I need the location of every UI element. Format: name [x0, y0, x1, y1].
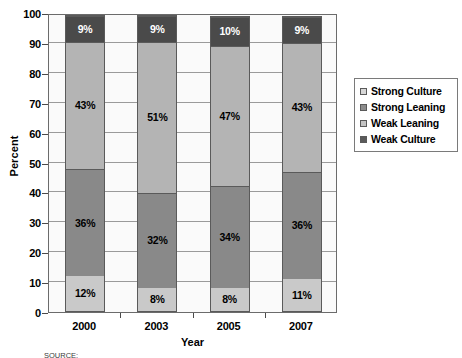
- bar-stack: 8%34%47%10%: [210, 15, 250, 312]
- y-tick-label: 90: [1, 39, 41, 50]
- segment-divider: [66, 42, 104, 43]
- y-tick-mark: [42, 164, 48, 165]
- bar-segment-weak-leaning[interactable]: 47%: [210, 46, 250, 187]
- x-axis-title: Year: [48, 336, 337, 348]
- segment-divider: [283, 17, 321, 18]
- y-tick-mark: [42, 44, 48, 45]
- legend-swatch-icon: [360, 104, 367, 111]
- x-tick-label-2007: 2007: [271, 320, 331, 332]
- legend-item-weak-leaning[interactable]: Weak Leaning: [360, 116, 453, 130]
- y-tick-label: 30: [1, 218, 41, 229]
- y-tick-mark: [42, 253, 48, 254]
- bar-segment-strong-culture[interactable]: 9%: [65, 15, 105, 42]
- y-tick-label: 40: [1, 188, 41, 199]
- bar-segment-strong-culture[interactable]: 9%: [282, 16, 322, 43]
- segment-value-label: 34%: [220, 232, 240, 243]
- bar-segment-strong-leaning[interactable]: 36%: [65, 169, 105, 276]
- bar-stack: 11%36%43%9%: [282, 15, 322, 312]
- segment-divider: [138, 193, 176, 194]
- segment-divider: [138, 42, 176, 43]
- bar-segment-strong-leaning[interactable]: 36%: [282, 172, 322, 280]
- segment-value-label: 32%: [147, 235, 167, 246]
- segment-divider: [211, 17, 249, 18]
- y-tick-mark: [42, 193, 48, 194]
- legend-item-label: Strong Leaning: [371, 102, 445, 113]
- x-tick-label-2005: 2005: [199, 320, 259, 332]
- segment-value-label: 9%: [150, 24, 165, 35]
- y-tick-mark: [42, 223, 48, 224]
- legend-swatch-icon: [360, 136, 367, 143]
- segment-value-label: 43%: [75, 100, 95, 111]
- bar-segment-weak-leaning[interactable]: 43%: [65, 42, 105, 170]
- bar-segment-strong-culture[interactable]: 10%: [210, 16, 250, 46]
- y-tick-mark: [42, 74, 48, 75]
- segment-value-label: 43%: [292, 102, 312, 113]
- bar-group-2005[interactable]: 8%34%47%10%: [210, 15, 250, 312]
- bar-group-2000[interactable]: 12%36%43%9%: [65, 15, 105, 312]
- y-tick-label: 0: [1, 308, 41, 319]
- segment-divider: [283, 172, 321, 173]
- segment-divider: [66, 169, 104, 170]
- segment-divider: [211, 186, 249, 187]
- x-tick-label-2003: 2003: [126, 320, 186, 332]
- legend-swatch-icon: [360, 120, 367, 127]
- y-tick-label: 80: [1, 69, 41, 80]
- legend-swatch-icon: [360, 88, 367, 95]
- bar-segment-weak-culture[interactable]: 11%: [282, 279, 322, 312]
- segment-divider: [211, 46, 249, 47]
- bar-stack: 12%36%43%9%: [65, 15, 105, 312]
- segment-value-label: 9%: [295, 25, 310, 36]
- y-axis-title: Percent: [8, 111, 20, 201]
- bar-segment-strong-leaning[interactable]: 32%: [137, 193, 177, 288]
- chart-legend: Strong CultureStrong LeaningWeak Leaning…: [354, 78, 458, 152]
- segment-value-label: 8%: [150, 294, 165, 305]
- x-tick-mark: [120, 313, 121, 318]
- y-tick-mark: [42, 134, 48, 135]
- y-tick-mark: [42, 313, 48, 314]
- y-tick-label: 100: [1, 9, 41, 20]
- bar-segment-weak-leaning[interactable]: 43%: [282, 43, 322, 172]
- bar-segment-weak-culture[interactable]: 8%: [210, 288, 250, 312]
- segment-divider: [138, 16, 176, 17]
- segment-value-label: 36%: [75, 218, 95, 229]
- segment-value-label: 36%: [292, 220, 312, 231]
- segment-divider: [283, 43, 321, 44]
- y-tick-mark: [42, 104, 48, 105]
- segment-divider: [66, 16, 104, 17]
- y-tick-label: 10: [1, 278, 41, 289]
- legend-item-label: Weak Leaning: [371, 118, 439, 129]
- bar-segment-weak-leaning[interactable]: 51%: [137, 42, 177, 193]
- segment-value-label: 51%: [147, 112, 167, 123]
- x-tick-mark: [193, 313, 194, 318]
- y-tick-mark: [42, 14, 48, 15]
- legend-item-label: Weak Culture: [371, 134, 436, 145]
- source-note: SOURCE:: [44, 351, 454, 358]
- segment-value-label: 47%: [220, 111, 240, 122]
- segment-value-label: 11%: [292, 290, 312, 301]
- bar-group-2007[interactable]: 11%36%43%9%: [282, 15, 322, 312]
- segment-value-label: 8%: [222, 294, 237, 305]
- bar-stack: 8%32%51%9%: [137, 15, 177, 312]
- bar-segment-strong-culture[interactable]: 9%: [137, 15, 177, 42]
- segment-value-label: 10%: [220, 26, 240, 37]
- y-tick-label: 60: [1, 129, 41, 140]
- y-tick-label: 50: [1, 159, 41, 170]
- bar-segment-weak-culture[interactable]: 12%: [65, 276, 105, 312]
- bar-segment-weak-culture[interactable]: 8%: [137, 288, 177, 312]
- legend-item-strong-culture[interactable]: Strong Culture: [360, 84, 453, 98]
- y-tick-mark: [42, 283, 48, 284]
- legend-item-label: Strong Culture: [371, 86, 442, 97]
- y-tick-label: 20: [1, 248, 41, 259]
- legend-item-strong-leaning[interactable]: Strong Leaning: [360, 100, 453, 114]
- legend-item-weak-culture[interactable]: Weak Culture: [360, 132, 453, 146]
- stacked-bar-chart-figure: 12%36%43%9%8%32%51%9%8%34%47%10%11%36%43…: [0, 0, 462, 358]
- bar-group-2003[interactable]: 8%32%51%9%: [137, 15, 177, 312]
- segment-value-label: 12%: [75, 288, 95, 299]
- segment-value-label: 9%: [78, 24, 93, 35]
- x-tick-mark: [265, 313, 266, 318]
- x-tick-label-2000: 2000: [54, 320, 114, 332]
- y-tick-label: 70: [1, 99, 41, 110]
- plot-area: 12%36%43%9%8%32%51%9%8%34%47%10%11%36%43…: [48, 14, 337, 313]
- bar-segment-strong-leaning[interactable]: 34%: [210, 186, 250, 288]
